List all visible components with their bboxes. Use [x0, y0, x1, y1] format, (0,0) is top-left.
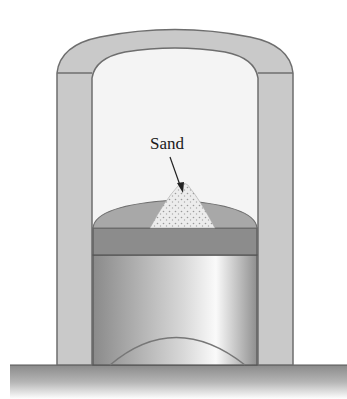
- piston-cylinder-diagram: [0, 0, 347, 399]
- sand-label: Sand: [150, 134, 184, 154]
- ground: [10, 365, 347, 399]
